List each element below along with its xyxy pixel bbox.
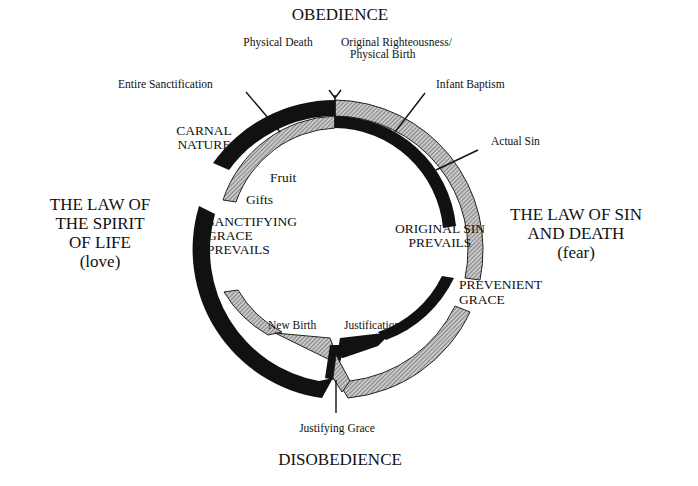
wesleyan-order-of-salvation-diagram: OBEDIENCE DISOBEDIENCE Physical Death Or… (0, 0, 698, 486)
gifts-label: Gifts (246, 192, 273, 207)
original-sin-label-1: ORIGINAL SIN (395, 221, 485, 236)
law-of-spirit-label-3: OF LIFE (69, 233, 131, 252)
entire-sanctification-label: Entire Sanctification (118, 78, 213, 90)
fruit-label: Fruit (270, 170, 297, 185)
new-birth-label: New Birth (268, 319, 316, 331)
justification-wedge (337, 332, 392, 358)
prevenient-grace-label-1: PREVENIENT (459, 277, 543, 292)
disobedience-label: DISOBEDIENCE (278, 450, 402, 469)
actual-sin-label: Actual Sin (491, 135, 540, 147)
inner-hatched-top-segment (223, 116, 335, 202)
law-of-sin-label-3: (fear) (557, 243, 595, 262)
justifying-grace-label: Justifying Grace (299, 422, 375, 435)
law-of-spirit-label-4: (love) (80, 252, 121, 271)
justification-label: Justification (344, 319, 400, 331)
carnal-nature-label-1: CARNAL (176, 123, 232, 138)
physical-birth-label: Physical Birth (350, 48, 416, 61)
law-of-spirit-label-2: THE SPIRIT (55, 214, 145, 233)
sanctifying-grace-label-1: SANCTIFYING (207, 214, 297, 229)
prevenient-grace-label-2: GRACE (459, 292, 505, 307)
physical-death-label: Physical Death (243, 36, 313, 49)
sanctifying-grace-label-2: GRACE (207, 228, 253, 243)
law-of-sin-label-1: THE LAW OF SIN (510, 205, 642, 224)
original-sin-label-2: PREVAILS (409, 235, 472, 250)
carnal-nature-label-2: NATURE (177, 137, 230, 152)
sanctifying-grace-label-3: PREVAILS (207, 242, 270, 257)
infant-baptism-label: Infant Baptism (436, 78, 505, 91)
inner-black-top-right-segment (335, 116, 456, 228)
law-of-spirit-label-1: THE LAW OF (50, 195, 150, 214)
obedience-label: OBEDIENCE (292, 5, 388, 24)
new-birth-wedge (275, 333, 337, 360)
law-of-sin-label-2: AND DEATH (528, 224, 625, 243)
